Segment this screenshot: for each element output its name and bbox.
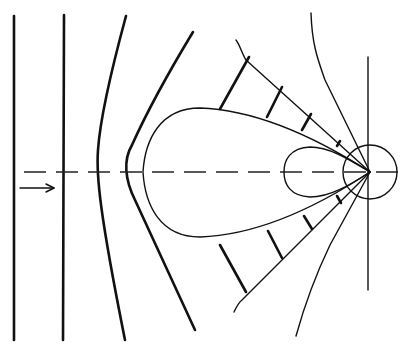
hatch-mark <box>267 87 282 117</box>
hatch-marks <box>220 57 341 292</box>
hatch-mark <box>268 231 282 258</box>
wave-diagram <box>0 0 402 348</box>
wavefronts <box>14 15 195 340</box>
wavefront-line <box>63 15 64 340</box>
wavefront-line <box>98 16 126 340</box>
hatch-mark <box>220 245 246 292</box>
hatch-mark <box>220 57 249 109</box>
hatch-mark <box>337 196 341 203</box>
cone-upper-edge <box>236 40 370 172</box>
cone-lower-edge <box>234 172 370 312</box>
hatch-mark <box>302 114 311 130</box>
wavefront-line <box>126 32 195 330</box>
direction-arrow <box>20 184 54 192</box>
hatch-mark <box>304 216 312 229</box>
